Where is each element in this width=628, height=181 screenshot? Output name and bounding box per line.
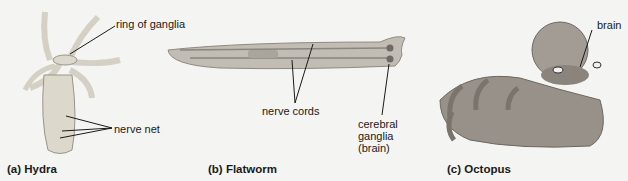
flatworm-illustration [168, 37, 405, 69]
label-cerebral-line2: ganglia [358, 130, 393, 142]
caption-octopus: (c) Octopus [447, 163, 511, 175]
label-brain: brain [597, 19, 621, 31]
diagram-artwork [0, 0, 628, 181]
label-cerebral-line1: cerebral [358, 118, 398, 130]
hydra-illustration [25, 12, 120, 154]
label-nerve-net: nerve net [114, 123, 160, 135]
octopus-illustration [440, 22, 603, 147]
label-cerebral-line3: (brain) [358, 142, 390, 154]
label-ring-of-ganglia: ring of ganglia [116, 18, 185, 30]
caption-flatworm: (b) Flatworm [208, 163, 277, 175]
label-nerve-cords: nerve cords [262, 105, 319, 117]
caption-hydra: (a) Hydra [7, 163, 57, 175]
